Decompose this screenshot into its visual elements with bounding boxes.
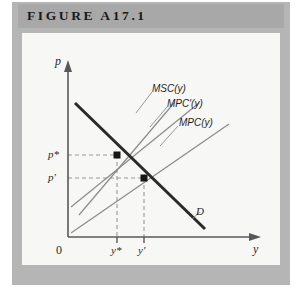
tick-label-p-prime: p′ (48, 172, 56, 183)
origin-label: 0 (56, 243, 62, 258)
figure-a17-1: FIGURE A17.1 (0, 0, 302, 293)
tick-label-p-star: p* (48, 149, 59, 160)
curve-label-msc: MSC(y) (152, 84, 186, 94)
curve-label-demand: D (196, 206, 204, 217)
figure-title: FIGURE A17.1 (18, 8, 147, 24)
x-axis-label: y (253, 243, 258, 255)
curve-label-mpc: MPC(y) (179, 118, 213, 128)
figure-title-bar: FIGURE A17.1 (18, 4, 284, 28)
tick-label-y-star: y* (111, 245, 121, 256)
y-axis-label: p (55, 55, 61, 67)
tick-label-y-prime: y′ (138, 245, 145, 256)
curve-label-mpc-prime: MPC′(y) (167, 99, 203, 109)
